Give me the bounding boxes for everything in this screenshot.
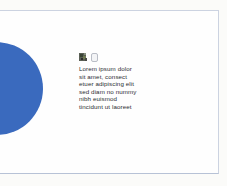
text-line: sed diam no nummy (79, 88, 137, 96)
text-line: sit amet, consect (79, 73, 137, 81)
text-line: etuer adipiscing elit (79, 80, 137, 88)
lorem-text-block: Lorem ipsum dolor sit amet, consect etue… (79, 65, 137, 110)
text-line: Lorem ipsum dolor (79, 65, 137, 73)
document-icon (91, 53, 98, 62)
text-line: tincidunt ut laoreet (79, 103, 137, 111)
placeholder-icon-row (79, 52, 139, 64)
text-line: nibh euismod (79, 95, 137, 103)
page-thumbnail: Lorem ipsum dolor sit amet, consect etue… (0, 0, 227, 186)
clipart-icon (79, 52, 88, 62)
placeholder-content: Lorem ipsum dolor sit amet, consect etue… (79, 52, 139, 110)
